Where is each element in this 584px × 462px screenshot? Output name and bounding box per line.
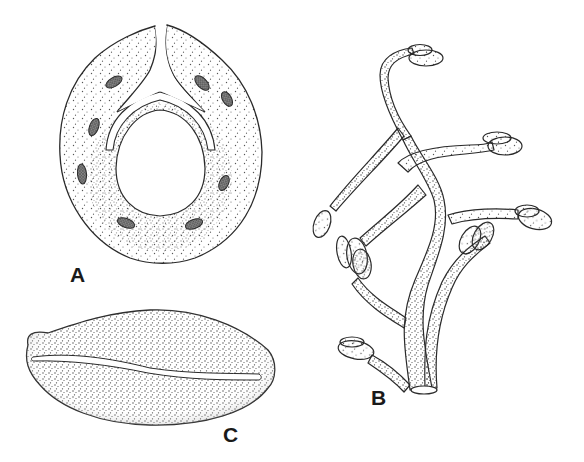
panel-b-main-trunk — [403, 136, 446, 390]
panel-b-middle-body-cap — [483, 132, 511, 144]
panel-b-bottom-body-cap — [340, 337, 364, 347]
panel-b-loop-branch — [352, 278, 406, 328]
panel-b-right-body-cap — [515, 205, 539, 217]
panel-b-right-branch — [448, 209, 518, 224]
panel-label-c: C — [223, 424, 238, 445]
panel-b-lower-left-branch — [360, 185, 426, 246]
panel-b-upper-stem — [380, 48, 414, 140]
panel-b-top-body-cap — [408, 45, 432, 56]
panel-b-left-branch — [330, 128, 404, 211]
panel-b-left-body — [310, 208, 335, 240]
panel-label-b: B — [371, 387, 386, 408]
panel-b-drawing — [310, 45, 554, 395]
figure-illustration — [0, 0, 584, 462]
panel-b-trunk-base — [411, 386, 437, 394]
panel-c-drawing — [27, 310, 275, 425]
panel-label-a: A — [70, 264, 85, 285]
panel-a-drawing — [60, 25, 262, 264]
